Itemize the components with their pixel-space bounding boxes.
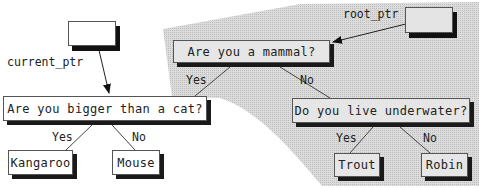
edge-label-mammal-yes: Yes bbox=[186, 73, 207, 87]
leaf-robin: Robin bbox=[421, 153, 468, 177]
root-ptr-box bbox=[405, 7, 453, 33]
node-live-underwater: Do you live underwater? bbox=[292, 98, 470, 123]
node-bigger-than-a-cat: Are you bigger than a cat? bbox=[3, 96, 207, 121]
edge-label-underwater-no: No bbox=[423, 131, 437, 145]
root-ptr-label: root_ptr bbox=[343, 7, 398, 21]
current-ptr-label: current_ptr bbox=[7, 55, 83, 69]
edge-label-bigger-no: No bbox=[132, 130, 146, 144]
node-are-you-a-mammal: Are you a mammal? bbox=[173, 40, 330, 63]
edge-label-mammal-no: No bbox=[300, 73, 314, 87]
leaf-trout: Trout bbox=[334, 153, 380, 177]
edge-label-bigger-yes: Yes bbox=[52, 130, 73, 144]
edge-label-underwater-yes: Yes bbox=[336, 131, 357, 145]
decision-tree-diagram: current_ptr root_ptr Are you a mammal? A… bbox=[0, 0, 479, 188]
current-ptr-box bbox=[68, 21, 116, 46]
leaf-kangaroo: Kangaroo bbox=[8, 150, 73, 175]
leaf-mouse: Mouse bbox=[112, 150, 160, 175]
